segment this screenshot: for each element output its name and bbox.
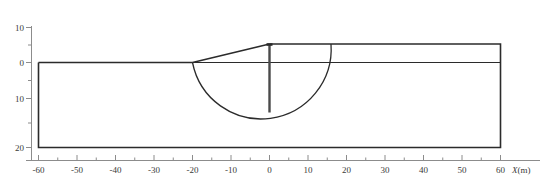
geometry-group — [39, 44, 501, 148]
x-tick-label-40: 40 — [419, 165, 429, 175]
x-tick-label-10: 10 — [304, 165, 314, 175]
x-tick-label-minus30: -30 — [148, 165, 160, 175]
y-tick-label-10-upper: 10 — [15, 23, 25, 33]
x-tick-label-minus10: -10 — [225, 165, 237, 175]
x-tick-label-30: 30 — [381, 165, 391, 175]
x-axis-title-unit: (m) — [518, 165, 531, 175]
y-axis-minor-ticks — [28, 45, 32, 123]
x-tick-label-minus40: -40 — [110, 165, 122, 175]
x-axis-title: X(m) — [511, 165, 531, 175]
axis-group: 10 0 10 20 — [15, 23, 540, 176]
slip-surface-arc — [193, 44, 332, 119]
slope-face — [193, 44, 270, 63]
x-axis-major-ticks — [39, 155, 501, 161]
x-tick-label-60: 60 — [496, 165, 506, 175]
x-tick-label-20: 20 — [342, 165, 352, 175]
diagram-canvas: 10 0 10 20 — [0, 0, 546, 190]
slope-stability-figure: 10 0 10 20 — [0, 0, 546, 190]
y-tick-label-10-lower: 10 — [15, 94, 25, 104]
x-tick-label-minus20: -20 — [187, 165, 199, 175]
x-tick-label-50: 50 — [458, 165, 468, 175]
y-tick-label-20: 20 — [15, 143, 25, 153]
x-tick-label-minus50: -50 — [71, 165, 83, 175]
x-tick-label-0: 0 — [267, 165, 272, 175]
x-tick-label-minus60: -60 — [33, 165, 45, 175]
y-tick-label-0: 0 — [20, 58, 25, 68]
